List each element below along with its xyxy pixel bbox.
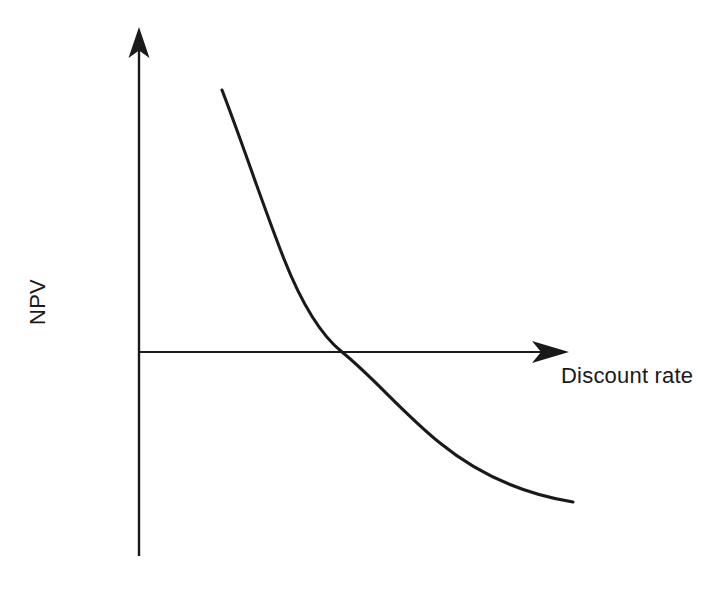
y-axis-label: NPV xyxy=(25,264,51,340)
x-axis-label: Discount rate xyxy=(561,363,693,389)
chart-canvas xyxy=(0,0,716,591)
npv-curve xyxy=(222,90,573,502)
npv-discount-rate-chart: NPV Discount rate xyxy=(0,0,716,591)
